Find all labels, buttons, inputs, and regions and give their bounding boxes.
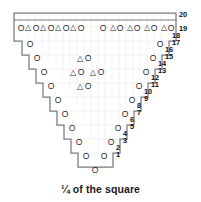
svg-text:O: O <box>115 123 122 133</box>
svg-text:O: O <box>108 137 115 147</box>
svg-text:O: O <box>27 39 34 49</box>
svg-text:7: 7 <box>137 108 141 117</box>
svg-text:O: O <box>157 39 164 49</box>
svg-text:13: 13 <box>158 66 166 75</box>
svg-text:△: △ <box>40 23 47 32</box>
svg-text:O: O <box>134 23 141 33</box>
svg-text:O: O <box>117 23 124 33</box>
svg-text:20: 20 <box>179 10 187 19</box>
svg-text:O: O <box>76 137 83 147</box>
svg-text:△: △ <box>77 54 84 63</box>
svg-text:△: △ <box>77 82 84 91</box>
svg-text:O: O <box>83 151 90 161</box>
svg-text:1: 1 <box>116 150 120 159</box>
svg-text:O: O <box>101 151 108 161</box>
svg-text:O: O <box>129 95 136 105</box>
svg-text:O: O <box>92 165 99 175</box>
row-19-symbols: O △ O △ O △ O △ O O △ O △ O △ O △ O <box>18 23 175 33</box>
svg-text:O: O <box>151 23 158 33</box>
svg-text:5: 5 <box>130 122 134 131</box>
svg-text:O: O <box>33 23 40 33</box>
svg-text:9: 9 <box>144 94 148 103</box>
svg-text:O: O <box>136 81 143 91</box>
chart-caption: ¼ of the square <box>0 183 201 195</box>
svg-text:O: O <box>69 123 76 133</box>
chart-svg-canvas: O △ O △ O △ O △ O O △ O △ O △ O △ O O O … <box>0 0 201 202</box>
svg-text:O: O <box>78 23 85 33</box>
svg-text:O: O <box>150 53 157 63</box>
svg-text:△: △ <box>55 23 62 32</box>
svg-text:△: △ <box>90 68 97 77</box>
svg-text:O: O <box>62 109 69 119</box>
svg-text:△: △ <box>70 68 77 77</box>
svg-text:O: O <box>100 23 107 33</box>
svg-text:O: O <box>85 81 92 91</box>
svg-text:O: O <box>34 53 41 63</box>
staircase-symbols: O O O O O O O O O O O O O O O O O O O <box>27 39 164 175</box>
svg-text:△: △ <box>25 23 32 32</box>
center-motif-symbols: △ O △ O △ O △ O <box>70 53 105 91</box>
svg-text:O: O <box>85 53 92 63</box>
svg-text:△: △ <box>70 23 77 32</box>
svg-text:O: O <box>55 95 62 105</box>
svg-text:O: O <box>18 23 25 33</box>
svg-text:O: O <box>143 67 150 77</box>
svg-text:15: 15 <box>165 52 173 61</box>
svg-text:O: O <box>41 67 48 77</box>
svg-text:O: O <box>78 67 85 77</box>
svg-text:3: 3 <box>123 136 127 145</box>
svg-text:O: O <box>48 23 55 33</box>
svg-text:O: O <box>48 81 55 91</box>
svg-text:19: 19 <box>179 24 187 33</box>
svg-text:O: O <box>63 23 70 33</box>
knitting-chart-figure: O △ O △ O △ O △ O O △ O △ O △ O △ O O O … <box>0 0 201 202</box>
svg-text:O: O <box>122 109 129 119</box>
svg-text:O: O <box>98 67 105 77</box>
svg-text:17: 17 <box>172 38 180 47</box>
